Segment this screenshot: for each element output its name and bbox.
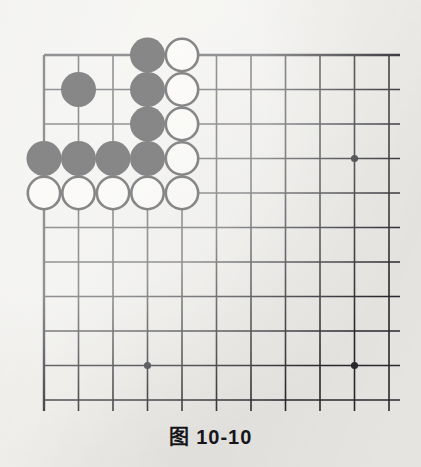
black-stone-c1-r3: [61, 141, 96, 176]
white-stone-c4-r3: [166, 142, 198, 174]
black-stone-c0-r3: [27, 141, 62, 176]
black-stone-c2-r3: [96, 141, 131, 176]
white-stone-c4-r0: [166, 39, 198, 71]
black-stone-c1-r1: [61, 72, 96, 107]
figure-caption: 图 10-10: [0, 421, 421, 450]
board-grid-lines: [44, 55, 400, 411]
white-stone-c2-r4: [97, 177, 129, 209]
black-stone-c3-r0: [130, 38, 165, 73]
white-stone-c4-r1: [166, 73, 198, 105]
figure-container: 图 10-10: [0, 0, 421, 467]
star-point-bottom-right: [351, 362, 358, 369]
white-stone-c4-r2: [166, 108, 198, 140]
white-stone-c3-r4: [131, 177, 163, 209]
star-point-right-upper: [351, 155, 358, 162]
black-stone-c3-r2: [130, 107, 165, 142]
white-stone-c0-r4: [28, 177, 60, 209]
black-stone-c3-r1: [130, 72, 165, 107]
black-stone-c3-r3: [130, 141, 165, 176]
go-board-graphic: [0, 0, 421, 467]
white-stone-c4-r4: [166, 177, 198, 209]
white-stone-c1-r4: [62, 177, 94, 209]
star-point-bottom-left: [144, 362, 151, 369]
